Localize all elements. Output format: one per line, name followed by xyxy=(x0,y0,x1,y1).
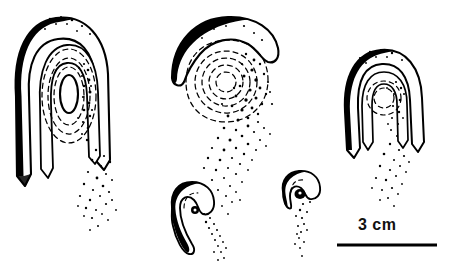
scale-bar-label: 3 cm xyxy=(358,216,396,234)
figure-plate: 3 cm xyxy=(0,0,449,279)
specimen-illustration xyxy=(0,0,449,279)
